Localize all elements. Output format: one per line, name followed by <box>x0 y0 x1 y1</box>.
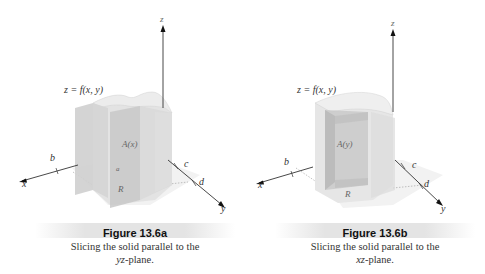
caption-plane: yz <box>116 254 125 265</box>
caption-line1: Slicing the solid parallel to the <box>311 241 440 252</box>
caption-suffix: -plane. <box>125 254 154 265</box>
caption-line1: Slicing the solid parallel to the <box>71 241 200 252</box>
label-d: d <box>424 178 429 189</box>
figure-13-6a: z z = f(x, y) A(x) a x b c d y R Figure … <box>0 0 242 274</box>
solid-left-face <box>93 103 108 198</box>
caption-suffix: -plane. <box>365 254 394 265</box>
y-axis-label: y <box>441 203 445 214</box>
figure-13-6b: z z = f(x, y) A(y) x b c d y R Figure 13… <box>243 0 485 274</box>
z-axis-label: z <box>391 18 395 28</box>
slice-label: A(y) <box>337 139 353 149</box>
label-b: b <box>50 152 55 163</box>
surface-label: z = f(x, y) <box>297 84 336 95</box>
label-b: b <box>284 156 289 167</box>
label-d: d <box>199 176 204 187</box>
label-c: c <box>184 158 188 169</box>
x-axis-label: x <box>22 178 26 189</box>
figure-caption: Slicing the solid parallel to the xz-pla… <box>265 240 485 266</box>
figure-caption: Slicing the solid parallel to the yz-pla… <box>25 240 245 266</box>
x-axis-label: x <box>258 179 262 190</box>
slice-extra-label: a <box>116 165 120 173</box>
slice-label: A(x) <box>122 139 138 149</box>
slice-plane-ax <box>110 106 140 208</box>
region-label: R <box>118 184 124 194</box>
region-label: R <box>345 189 351 199</box>
y-axis-label: y <box>221 203 225 214</box>
label-c: c <box>412 159 416 170</box>
surface-label: z = f(x, y) <box>64 84 103 95</box>
figure-title-banner: Figure 13.6a <box>35 223 235 238</box>
figure-title-banner: Figure 13.6b <box>275 223 475 238</box>
z-axis-label: z <box>160 14 164 24</box>
caption-plane: xz <box>356 254 365 265</box>
x-axis <box>22 165 78 181</box>
figure-title: Figure 13.6b <box>343 227 408 239</box>
x-axis <box>259 167 313 183</box>
figure-title: Figure 13.6a <box>103 227 167 239</box>
